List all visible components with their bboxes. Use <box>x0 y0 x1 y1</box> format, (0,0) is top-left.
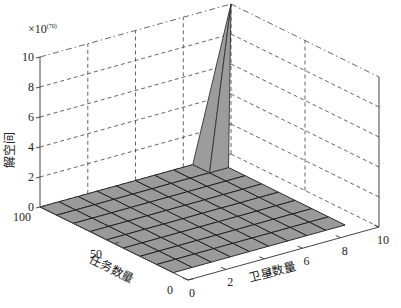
z-tick-label: 10 <box>22 50 34 64</box>
z-tick <box>36 57 40 58</box>
z-tick-label: 6 <box>28 110 34 124</box>
satellite-tick-label: 0 <box>189 286 195 300</box>
task-tick-label: 50 <box>90 247 102 261</box>
z-tick <box>36 207 40 208</box>
task-tick-label: 0 <box>167 283 173 297</box>
satellite-tick <box>221 267 226 269</box>
task-tick-label: 100 <box>13 210 31 224</box>
z-tick <box>36 147 40 148</box>
satellite-tick-label: 8 <box>342 244 348 258</box>
task-tick <box>188 279 193 280</box>
satellite-tick-label: 10 <box>377 233 389 247</box>
surface-chart: ×10(70) 解空间 任务数量 卫星数量 024681005010002468… <box>0 0 401 308</box>
satellite-tick <box>298 246 303 248</box>
satellite-tick-label: 2 <box>227 275 233 289</box>
z-exponent-label: ×10(70) <box>28 22 57 36</box>
z-tick-label: 2 <box>28 170 34 184</box>
z-axis-label: 解空间 <box>3 132 17 168</box>
z-tick <box>36 87 40 88</box>
surface-mesh <box>40 4 345 273</box>
z-tick <box>36 117 40 118</box>
satellite-tick-label: 6 <box>304 254 310 268</box>
satellite-tick <box>259 257 264 259</box>
z-tick <box>36 177 40 178</box>
satellite-tick-label: 4 <box>265 265 271 279</box>
z-tick-label: 8 <box>28 80 34 94</box>
satellite-tick <box>336 236 341 238</box>
z-tick-label: 4 <box>28 140 34 154</box>
